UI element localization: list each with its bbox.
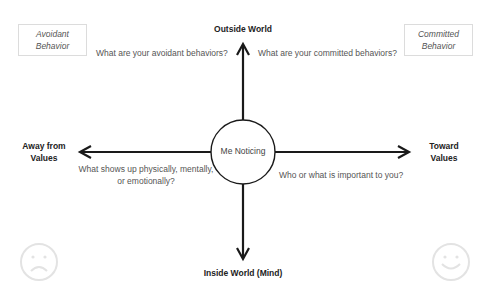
question-bottom-right: Who or what is important to you? [279, 169, 403, 181]
committed-box-line1: Committed [405, 28, 472, 40]
question-top-right: What are your committed behaviors? [258, 47, 397, 59]
committed-box-line2: Behavior [405, 40, 472, 52]
committed-behavior-box: Committed Behavior [404, 24, 473, 56]
question-bottom-left: What shows up physically, mentally, or e… [78, 163, 214, 187]
axis-label-left: Away from Values [14, 140, 74, 164]
axis-label-bottom: Inside World (Mind) [183, 267, 303, 279]
axis-left-line1: Away from [14, 140, 74, 152]
question-bottom-left-line2: or emotionally? [78, 175, 214, 187]
happy-face-icon [430, 241, 472, 283]
axis-label-right: Toward Values [414, 140, 474, 164]
axis-label-top: Outside World [193, 23, 293, 35]
axis-right-line1: Toward [414, 140, 474, 152]
avoidant-box-line2: Behavior [19, 40, 86, 52]
axis-right-line2: Values [414, 152, 474, 164]
avoidant-behavior-box: Avoidant Behavior [18, 24, 87, 56]
sad-face-icon [18, 241, 60, 283]
question-bottom-left-line1: What shows up physically, mentally, [78, 163, 214, 175]
question-top-left: What are your avoidant behaviors? [96, 47, 228, 59]
avoidant-box-line1: Avoidant [19, 28, 86, 40]
axis-left-line2: Values [14, 152, 74, 164]
center-label: Me Noticing [211, 146, 275, 156]
